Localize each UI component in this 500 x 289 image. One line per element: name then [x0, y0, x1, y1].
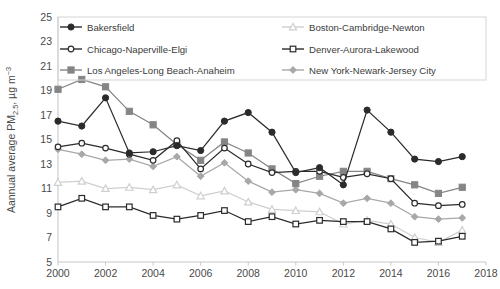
- data-point-marker: [102, 157, 109, 164]
- data-point-marker: [55, 144, 61, 150]
- data-point-marker: [55, 118, 61, 124]
- data-point-marker: [68, 24, 74, 30]
- data-point-marker: [316, 190, 323, 197]
- legend-item-denver-aurora-lakewood[interactable]: Denver-Aurora-Lakewood: [282, 44, 419, 55]
- data-point-marker: [126, 108, 132, 114]
- data-point-marker: [317, 218, 323, 224]
- series-line: [58, 141, 462, 206]
- data-point-marker: [245, 219, 251, 225]
- x-tick-label-2018: 2018: [474, 267, 498, 279]
- data-point-marker: [150, 213, 156, 219]
- data-point-marker: [173, 181, 180, 188]
- data-point-marker: [103, 204, 109, 210]
- data-point-marker: [102, 84, 108, 90]
- legend-label: Boston-Cambridge-Newton: [309, 22, 425, 33]
- legend-item-bakersfield[interactable]: Bakersfield: [60, 22, 134, 33]
- data-point-marker: [198, 166, 204, 172]
- y-tick-label-21: 21: [40, 60, 52, 72]
- data-point-marker: [245, 109, 251, 115]
- y-tick-label-25: 25: [40, 11, 52, 23]
- data-point-marker: [222, 208, 228, 214]
- data-point-marker: [293, 181, 299, 187]
- x-tick-label-2002: 2002: [94, 267, 118, 279]
- y-tick-label-11: 11: [41, 182, 52, 194]
- data-point-marker: [436, 203, 442, 209]
- data-point-marker: [174, 216, 180, 222]
- data-point-marker: [269, 214, 275, 220]
- data-point-marker: [126, 150, 132, 156]
- data-point-marker: [290, 46, 296, 52]
- data-point-marker: [290, 67, 297, 74]
- legend-item-los-angeles-long-beach-anaheim[interactable]: Los Angeles-Long Beach-Anaheim: [60, 65, 235, 76]
- legend-label: Denver-Aurora-Lakewood: [309, 44, 419, 55]
- data-point-marker: [198, 147, 204, 153]
- data-point-marker: [150, 122, 156, 128]
- series-line: [58, 79, 462, 193]
- data-point-marker: [341, 219, 347, 225]
- data-point-marker: [293, 169, 299, 175]
- y-tick-label-17: 17: [40, 109, 52, 121]
- data-point-marker: [79, 123, 85, 129]
- series-denver-aurora-lakewood: [55, 196, 465, 246]
- data-point-marker: [459, 184, 465, 190]
- data-point-marker: [387, 200, 394, 207]
- data-point-marker: [435, 158, 441, 164]
- data-point-marker: [412, 156, 418, 162]
- series-new-york-newark-jersey-city: [55, 146, 466, 223]
- data-point-marker: [388, 226, 394, 232]
- data-point-marker: [388, 129, 394, 135]
- data-point-marker: [79, 196, 85, 202]
- data-point-marker: [269, 170, 275, 176]
- data-point-marker: [79, 76, 85, 82]
- pm25-line-chart: 5791113151719212325200020022004200620082…: [0, 0, 500, 289]
- series-boston-cambridge-newton: [54, 178, 465, 246]
- data-point-marker: [68, 67, 74, 73]
- svg-text:Aannual average PM2.5, µg m−3: Aannual average PM2.5, µg m−3: [4, 67, 19, 213]
- data-point-marker: [364, 195, 371, 202]
- series-chicago-naperville-elgi: [55, 138, 465, 209]
- data-point-marker: [127, 204, 133, 210]
- y-tick-label-5: 5: [46, 256, 52, 268]
- y-tick-label-13: 13: [40, 158, 52, 170]
- data-point-marker: [103, 145, 109, 151]
- data-point-marker: [364, 107, 370, 113]
- data-point-marker: [412, 182, 418, 188]
- data-point-marker: [198, 213, 204, 219]
- series-los-angeles-long-beach-anaheim: [55, 76, 465, 196]
- data-point-marker: [55, 86, 61, 92]
- data-point-marker: [221, 139, 227, 145]
- data-point-marker: [340, 168, 346, 174]
- data-point-marker: [292, 186, 299, 193]
- x-tick-label-2006: 2006: [189, 267, 213, 279]
- data-point-marker: [198, 157, 204, 163]
- y-axis-title: Aannual average PM2.5, µg m−3: [4, 67, 19, 213]
- series-line: [58, 98, 462, 185]
- legend-label: Bakersfield: [87, 22, 134, 33]
- data-point-marker: [245, 161, 251, 167]
- data-point-marker: [412, 200, 418, 206]
- data-point-marker: [150, 163, 157, 170]
- legend-item-chicago-naperville-elgi[interactable]: Chicago-Naperville-Elgi: [60, 44, 187, 55]
- legend-item-new-york-newark-jersey-city[interactable]: New York-Newark-Jersey City: [282, 65, 436, 76]
- data-point-marker: [79, 140, 85, 146]
- y-tick-label-7: 7: [46, 231, 52, 243]
- data-point-marker: [411, 213, 418, 220]
- data-point-marker: [102, 95, 108, 101]
- data-point-marker: [78, 151, 85, 158]
- data-point-marker: [340, 182, 346, 188]
- data-point-marker: [435, 216, 442, 223]
- data-point-marker: [245, 198, 252, 205]
- data-point-marker: [459, 215, 466, 222]
- series-bakersfield: [55, 95, 465, 188]
- data-point-marker: [388, 176, 394, 182]
- data-point-marker: [221, 187, 228, 194]
- legend-item-boston-cambridge-newton[interactable]: Boston-Cambridge-Newton: [282, 22, 425, 33]
- data-point-marker: [150, 158, 156, 164]
- data-point-marker: [459, 154, 465, 160]
- data-point-marker: [459, 202, 465, 208]
- x-tick-label-2012: 2012: [332, 267, 356, 279]
- data-point-marker: [269, 129, 275, 135]
- legend-label: New York-Newark-Jersey City: [309, 65, 436, 76]
- legend-label: Chicago-Naperville-Elgi: [87, 44, 187, 55]
- x-tick-label-2016: 2016: [427, 267, 451, 279]
